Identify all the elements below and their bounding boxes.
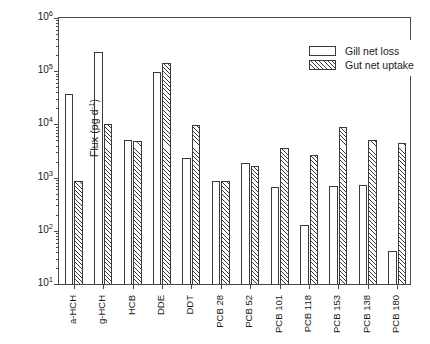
bar-pcb-101-gut-net-uptake <box>280 148 289 284</box>
x-axis-tick-pcb-52 <box>250 284 251 289</box>
bar-a-hch-gut-net-uptake <box>74 181 83 284</box>
x-axis-label-pcb-28: PCB 28 <box>214 295 226 344</box>
legend-label: Gill net loss <box>345 45 399 57</box>
bar-dde-gut-net-uptake <box>162 63 171 284</box>
y-tick-label: 106 <box>38 11 53 22</box>
y-tick-label: 103 <box>38 171 53 182</box>
chart-legend: Gill net lossGut net uptake <box>305 40 419 76</box>
legend-item-gut-net-uptake: Gut net uptake <box>309 58 414 72</box>
bar-pcb-138-gill-net-loss <box>359 185 368 284</box>
x-axis-label-pcb-118: PCB 118 <box>302 295 314 344</box>
bar-pcb-118-gut-net-uptake <box>310 155 319 284</box>
legend-swatch-hatched-rectangle <box>309 60 336 70</box>
bar-pcb-52-gill-net-loss <box>241 163 250 284</box>
x-axis-label-pcb-180: PCB 180 <box>390 295 402 344</box>
bar-pcb-28-gill-net-loss <box>212 181 221 284</box>
bar-pcb-180-gut-net-uptake <box>398 143 407 284</box>
x-axis-tick-pcb-118 <box>309 284 310 289</box>
bar-a-hch-gill-net-loss <box>65 94 74 284</box>
x-axis-label-ddt: DDT <box>184 295 196 344</box>
x-axis-tick-pcb-101 <box>280 284 281 289</box>
y-tick-label: 105 <box>38 64 53 75</box>
bar-pcb-153-gill-net-loss <box>329 186 338 284</box>
x-axis-label-hcb: HCB <box>126 295 138 344</box>
bar-ddt-gut-net-uptake <box>192 125 201 284</box>
x-axis-label-pcb-52: PCB 52 <box>243 295 255 344</box>
legend-swatch-open-rectangle <box>309 46 336 56</box>
bar-hcb-gill-net-loss <box>124 140 133 284</box>
bar-pcb-153-gut-net-uptake <box>339 127 348 284</box>
x-axis-tick-dde <box>162 284 163 289</box>
bar-pcb-28-gut-net-uptake <box>221 181 230 284</box>
flux-bar-chart-figure: 106105104103102101 Flux (pg d-1) Gill ne… <box>0 0 430 344</box>
x-axis-tick-pcb-138 <box>368 284 369 289</box>
legend-label: Gut net uptake <box>345 59 414 71</box>
bar-pcb-118-gill-net-loss <box>300 225 309 284</box>
bar-g-hch-gut-net-uptake <box>104 124 113 284</box>
x-axis-tick-ddt <box>191 284 192 289</box>
x-axis-labels: a-HCHg-HCHHCBDDEDDTPCB 28PCB 52PCB 101PC… <box>58 291 411 344</box>
bar-pcb-138-gut-net-uptake <box>368 140 377 284</box>
x-axis-tick-pcb-153 <box>338 284 339 289</box>
legend-item-gill-net-loss: Gill net loss <box>309 44 414 58</box>
bar-pcb-101-gill-net-loss <box>271 187 280 284</box>
bar-pcb-180-gill-net-loss <box>388 251 397 284</box>
x-axis-label-a-hch: a-HCH <box>67 295 79 344</box>
bar-hcb-gut-net-uptake <box>133 141 142 284</box>
x-axis-label-pcb-101: PCB 101 <box>273 295 285 344</box>
x-axis-tick-pcb-28 <box>221 284 222 289</box>
y-axis-title: Flux (pg d-1) <box>88 58 100 198</box>
y-axis-title-exponent: -1 <box>87 103 96 110</box>
y-tick-label: 102 <box>38 224 53 235</box>
bar-dde-gill-net-loss <box>153 72 162 284</box>
x-axis-label-pcb-138: PCB 138 <box>361 295 373 344</box>
x-axis-tick-a-hch <box>74 284 75 289</box>
x-axis-ticks <box>59 284 410 289</box>
bar-pcb-52-gut-net-uptake <box>251 166 260 284</box>
x-axis-label-pcb-153: PCB 153 <box>331 295 343 344</box>
x-axis-label-dde: DDE <box>155 295 167 344</box>
x-axis-tick-hcb <box>133 284 134 289</box>
bar-ddt-gill-net-loss <box>182 158 191 284</box>
y-tick-label: 104 <box>38 117 53 128</box>
y-axis-title-text: Flux (pg d <box>88 109 100 157</box>
x-axis-tick-pcb-180 <box>397 284 398 289</box>
x-axis-label-g-hch: g-HCH <box>96 295 108 344</box>
y-axis-title-suffix: ) <box>88 99 100 103</box>
plot-area: 106105104103102101 Flux (pg d-1) Gill ne… <box>58 17 411 285</box>
x-axis-tick-g-hch <box>103 284 104 289</box>
y-tick-label: 101 <box>38 277 53 288</box>
